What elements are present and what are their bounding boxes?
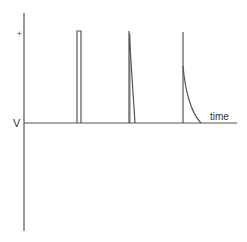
pulse-rectangular <box>77 31 81 123</box>
x-axis-time-label: time <box>210 111 229 122</box>
pulse-exponential-decay <box>183 66 201 123</box>
waveform-diagram: + V time <box>0 0 247 242</box>
y-axis-v-label: V <box>13 117 21 129</box>
y-axis-plus-label: + <box>17 29 22 38</box>
